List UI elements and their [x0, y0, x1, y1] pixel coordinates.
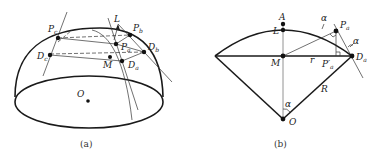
panel-a: Pc Dc L Pb Pa Db M Da O (a) — [15, 12, 172, 149]
arrow-l-head — [116, 24, 121, 30]
label-alpha-bottom: α — [285, 99, 291, 109]
line-m-pa — [283, 31, 336, 56]
point-a — [281, 22, 285, 26]
point-m-b — [281, 54, 286, 59]
label-pa-prime: P′a — [321, 59, 334, 70]
label-db: Db — [147, 42, 159, 53]
caption-b: (b) — [274, 139, 287, 149]
label-pb: Pb — [132, 23, 143, 34]
label-pc: Pc — [47, 24, 58, 35]
caption-a: (a) — [80, 139, 92, 149]
alpha-arc-bottom — [283, 109, 290, 112]
point-o-b — [281, 117, 286, 122]
panel-b: A L M r P′a Pa Da α α α R O (b) — [215, 12, 367, 149]
label-da-a: Da — [127, 60, 139, 71]
point-pc — [56, 36, 60, 40]
point-pa-b — [334, 29, 339, 34]
label-m-b: M — [270, 58, 281, 68]
label-o-a: O — [77, 89, 85, 99]
label-o-b: O — [289, 117, 297, 127]
point-pb — [128, 33, 132, 37]
dashed-pc-pb — [58, 35, 130, 38]
label-alpha-top: α — [321, 13, 327, 23]
label-pa-a: Pa — [120, 42, 131, 53]
alpha-arrow-top — [322, 24, 324, 29]
line-pc-pa — [58, 38, 116, 44]
point-da-b — [350, 54, 355, 59]
point-l-b — [281, 28, 285, 32]
point-db — [142, 50, 146, 54]
tangent-line-c — [43, 12, 67, 76]
tangent-da — [334, 24, 363, 78]
right-angle-pa — [330, 34, 336, 37]
hemisphere-dome — [15, 28, 163, 97]
label-da-b: Da — [355, 52, 367, 63]
point-pa — [114, 42, 118, 46]
point-o-a — [86, 99, 90, 103]
label-dc: Dc — [36, 51, 48, 62]
label-R: R — [320, 84, 328, 94]
point-da — [120, 59, 124, 63]
label-pa-b: Pa — [339, 20, 350, 31]
label-a: A — [278, 12, 286, 22]
label-l-a: L — [113, 14, 120, 24]
label-m-a: M — [102, 60, 113, 70]
point-m — [108, 55, 112, 59]
label-alpha-right: α — [353, 36, 359, 46]
diagram-canvas: Pc Dc L Pb Pa Db M Da O (a) — [0, 0, 374, 159]
radius-right-R — [283, 56, 352, 119]
label-r: r — [310, 55, 315, 65]
label-l-b: L — [272, 26, 279, 36]
sector-arc — [215, 30, 352, 56]
point-dc — [48, 53, 52, 57]
